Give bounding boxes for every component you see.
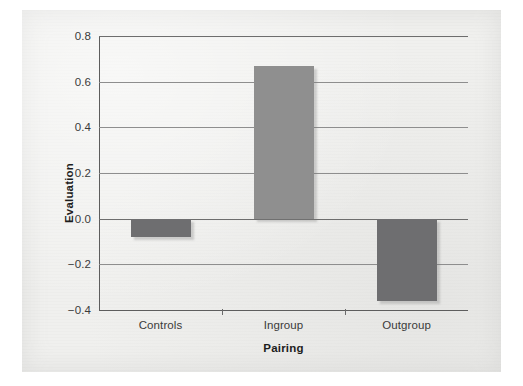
y-tick-label: 0.4	[75, 121, 91, 133]
plot-area: −0.4−0.20.00.20.40.60.8 ControlsIngroupO…	[99, 36, 468, 310]
gridline	[99, 310, 468, 311]
x-axis-title: Pairing	[99, 342, 468, 354]
y-tick-label: −0.4	[68, 304, 91, 316]
bar-outgroup	[377, 219, 437, 301]
gridline	[99, 36, 468, 37]
figure-root: Evaluation −0.4−0.20.00.20.40.60.8 Contr…	[0, 0, 523, 386]
x-tick-label: Controls	[139, 319, 183, 331]
y-tick-label: 0.0	[75, 213, 91, 225]
x-tick-label: Outgroup	[382, 319, 431, 331]
y-tick-label: 0.6	[75, 76, 91, 88]
bar-controls	[131, 219, 191, 237]
y-tick-label: 0.2	[75, 167, 91, 179]
x-tick	[345, 309, 346, 315]
y-tick-label: 0.8	[75, 30, 91, 42]
x-tick-label: Ingroup	[264, 319, 304, 331]
y-axis-title: Evaluation	[63, 163, 75, 223]
x-tick	[222, 309, 223, 315]
bar-ingroup	[254, 66, 314, 219]
y-tick-label: −0.2	[68, 258, 91, 270]
